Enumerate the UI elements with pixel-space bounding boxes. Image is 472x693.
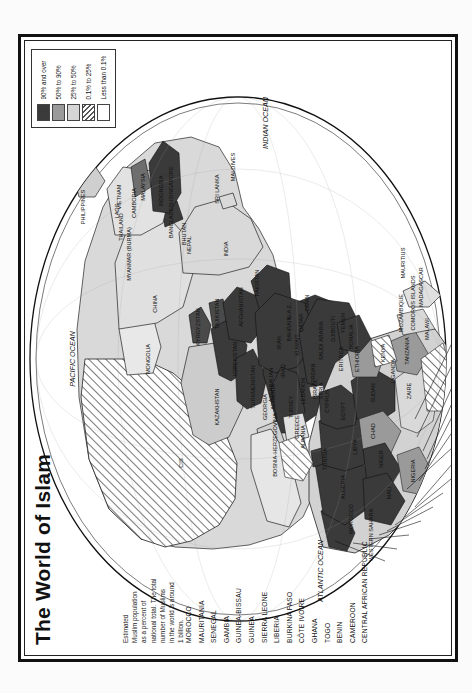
map-label: VIETNAM [116, 184, 122, 209]
map-label: ZAIRE [406, 383, 412, 400]
country-madagascar [403, 281, 441, 307]
map-page-inner: PACIFIC OCEANATLANTIC OCEANINDIAN OCEANC… [24, 40, 452, 656]
legend-label: 25% to 50% [70, 65, 77, 99]
map-label: MADAGASCAR [418, 267, 424, 307]
region-balkans [257, 421, 287, 467]
country-turkmenistan [235, 349, 267, 409]
map-label: MALI [386, 486, 392, 500]
map-label: TUNISIA [322, 448, 328, 470]
map-label: NIGER [378, 450, 384, 468]
map-label: MYANMAR (BURMA) [126, 227, 132, 281]
map-label: MOZAMBIQUE [398, 294, 404, 332]
map-label: U.A.E. [286, 302, 292, 319]
map-label: MALAYSIA [140, 173, 146, 201]
leader-label: LIBERIA [271, 493, 284, 643]
map-label: THAILAND [118, 213, 124, 241]
map-label: GEORGIA [262, 394, 268, 420]
legend-label: 50% to 90% [55, 65, 62, 99]
leader-label: MOROCCO [183, 493, 196, 643]
note-line: Estimated [121, 535, 130, 643]
leader-label: GUINEA [246, 493, 259, 643]
map-label: BAHRAIN [286, 317, 292, 342]
legend-swatch [97, 104, 110, 121]
legend-entry: 50% to 90% [52, 56, 65, 121]
leader-label: GUINEA-BISSAU [233, 493, 246, 643]
legend-swatch [67, 104, 80, 121]
country-israel [309, 385, 325, 397]
country-mozambique [397, 309, 435, 335]
leader-label: CÔTE IVOIRE [296, 493, 309, 643]
map-label: DJIBOUTI [330, 316, 336, 342]
map-label: KUWAIT [294, 334, 300, 356]
country-kazakhstan [181, 343, 243, 445]
country-nigeria [397, 447, 433, 495]
note-line: national total. The total [149, 535, 158, 643]
map-label: INDONESIA [158, 175, 164, 206]
legend-swatch [52, 104, 65, 121]
map-label: CHAD [370, 423, 376, 439]
map-label: ETHIOPIA [354, 346, 360, 372]
legend-swatch [37, 104, 50, 121]
legend-entry: 25% to 50% [67, 56, 80, 121]
country-bangladesh [161, 201, 183, 227]
rotated-page-content: PACIFIC OCEANATLANTIC OCEANINDIAN OCEANC… [24, 40, 452, 656]
region-southeast-asia [107, 167, 169, 235]
map-label: CIS [178, 458, 184, 468]
map-label: LIBYA [352, 439, 358, 455]
map-page-sheet: PACIFIC OCEANATLANTIC OCEANINDIAN OCEANC… [18, 34, 458, 662]
map-label: PHILIPPINES [80, 189, 86, 224]
country-saudi-arabia [299, 299, 367, 389]
map-label: AFGHANISTAN [238, 287, 244, 326]
map-label: JORDAN [310, 364, 316, 387]
country-mongolia [119, 303, 161, 375]
map-label: IRAN [276, 336, 282, 349]
map-note: Estimated Muslim population as a percent… [121, 535, 185, 643]
country-egypt [319, 385, 361, 429]
map-label: MALDIVES [230, 153, 236, 182]
leader-label: GAMBIA [221, 493, 234, 643]
landmass-eurasia [77, 137, 315, 549]
map-label: MAURITIUS [400, 247, 406, 278]
country-libya [319, 409, 371, 471]
map-label: LAOS [114, 203, 120, 218]
country-tajikistan [209, 299, 229, 331]
country-china [115, 207, 193, 329]
map-label: CYPRUS [324, 389, 330, 413]
leader-label: SENEGAL [208, 493, 221, 643]
legend-entry: Less than 0.1% [97, 56, 110, 121]
leader-label: TOGO [322, 493, 335, 643]
leader-label: BURKINA FASO [284, 493, 297, 643]
leader-label: BENIN [334, 493, 347, 643]
country-sudan [351, 367, 395, 423]
country-indonesia [149, 141, 181, 213]
country-uzbekistan [211, 319, 247, 381]
map-label: KENYA [380, 343, 386, 362]
screenshot-page: PACIFIC OCEANATLANTIC OCEANINDIAN OCEANC… [0, 0, 472, 693]
region-middle-east [263, 295, 363, 427]
map-label: MALAWI [424, 318, 430, 340]
map-label: TAJIKISTAN [214, 299, 220, 330]
map-label: PAKISTAN [254, 270, 260, 297]
leader-label: CENTRAL AFRICAN REPUBLIC [359, 493, 372, 643]
country-tunisia [311, 447, 327, 467]
leader-label: SIERRA LEONE [259, 493, 272, 643]
map-label: PACIFIC OCEAN [68, 331, 77, 387]
country-pakistan [251, 265, 291, 317]
map-label: SOMALIA [348, 324, 354, 349]
country-iran [255, 293, 315, 373]
map-label: INDIA [223, 241, 229, 256]
country-niger [363, 443, 401, 489]
map-label: TURKEY [288, 395, 294, 418]
country-philippines [73, 163, 105, 197]
map-label: SUDAN [370, 383, 376, 403]
page-title: The World of Islam [31, 454, 55, 645]
leader-label: CAMEROON [347, 493, 360, 643]
map-label: UZBEKISTAN [232, 342, 238, 377]
map-label: EGYPT [340, 401, 346, 421]
map-label: SRI LANKA [214, 174, 220, 203]
map-label: ARMENIA [270, 384, 276, 410]
country-greece [283, 413, 309, 443]
map-label: CAMBODIA [131, 188, 137, 218]
map-label: INDIAN OCEAN [261, 96, 270, 149]
country-cyprus [320, 393, 332, 409]
